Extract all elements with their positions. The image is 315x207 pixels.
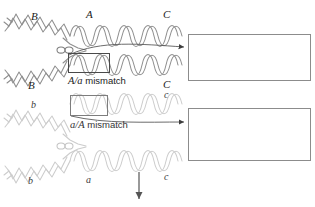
dna-double-helix-upper-box — [188, 34, 311, 81]
diagram-canvas — [0, 0, 315, 207]
caption-upper-mismatch: A/a mismatch — [68, 76, 126, 87]
label-lower-left-arm-bottom: b — [28, 176, 33, 186]
caption-lower-mismatch: a/A mismatch — [70, 120, 128, 131]
label-lower-right-c-bottom: c — [164, 172, 168, 182]
label-lower-right-c-top: c — [164, 90, 168, 100]
mismatch-box-upper — [68, 53, 110, 73]
mismatch-box-lower — [70, 95, 108, 116]
label-upper-left-arm-bottom: B — [28, 80, 35, 91]
label-lower-left-arm-top: b — [31, 100, 36, 110]
caption-upper-mismatch-alleles: A/a — [68, 75, 83, 86]
label-upper-right-c-top: C — [163, 9, 170, 20]
caption-lower-mismatch-word: mismatch — [85, 119, 128, 130]
caption-upper-mismatch-word: mismatch — [83, 75, 126, 86]
label-lower-strand-a: a — [86, 175, 91, 185]
recombination-mismatch-figure: B B A C C A/a mismatch b b c a c a/A mis… — [0, 0, 315, 207]
dna-double-helix-lower-box — [188, 108, 311, 161]
label-upper-strand-a: A — [86, 9, 93, 20]
caption-lower-mismatch-alleles: a/A — [70, 119, 85, 130]
label-upper-left-arm-top: B — [31, 11, 38, 22]
